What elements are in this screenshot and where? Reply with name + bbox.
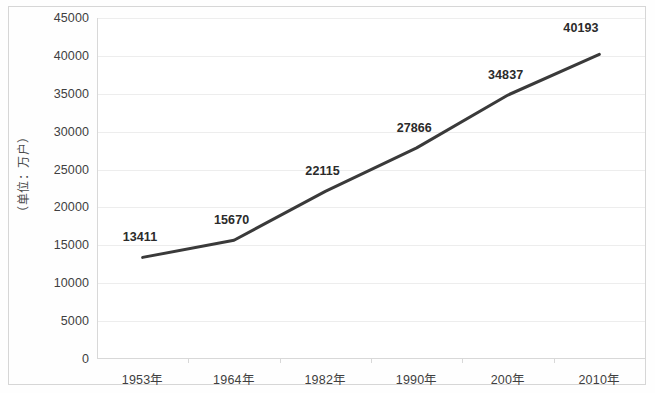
data-value-label: 13411 (123, 230, 158, 244)
data-value-label: 27866 (397, 121, 432, 135)
x-axis-tick-mark (188, 359, 189, 363)
y-axis-tick-label: 40000 (54, 49, 89, 63)
data-value-label: 34837 (488, 68, 523, 82)
x-axis-label: 2010年 (578, 369, 620, 388)
y-axis-tick-label: 5000 (61, 314, 89, 328)
data-value-label: 15670 (214, 213, 249, 227)
plot-area (97, 18, 645, 359)
data-value-label: 22115 (305, 164, 340, 178)
x-axis-label: 1982年 (304, 369, 346, 388)
x-axis-label: 1964年 (213, 369, 255, 388)
x-axis-tick-mark (280, 359, 281, 363)
y-axis-tick-labels: 0500010000150002000025000300003500040000… (22, 18, 89, 359)
y-axis-tick-label: 0 (82, 352, 89, 366)
line-series (97, 18, 645, 359)
y-axis-tick-label: 20000 (54, 200, 89, 214)
chart-container: （单位：万户） 05000100001500020000250003000035… (0, 0, 655, 393)
x-axis-label: 200年 (491, 369, 526, 388)
x-axis-tick-mark (371, 359, 372, 363)
series-line (143, 54, 600, 257)
y-axis-tick-label: 30000 (54, 125, 89, 139)
y-axis-tick-label: 35000 (54, 87, 89, 101)
y-axis-tick-label: 10000 (54, 276, 89, 290)
y-axis-tick-label: 45000 (54, 11, 89, 25)
x-axis-label: 1953年 (122, 369, 164, 388)
x-axis-tick-mark (554, 359, 555, 363)
x-axis-label: 1990年 (396, 369, 438, 388)
y-axis-tick-label: 25000 (54, 163, 89, 177)
x-axis-tick-mark (462, 359, 463, 363)
y-axis-tick-label: 15000 (54, 238, 89, 252)
data-value-label: 40193 (563, 21, 598, 35)
